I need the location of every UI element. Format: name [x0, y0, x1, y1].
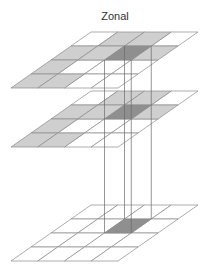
diagram-title: Zonal: [101, 10, 129, 22]
zonal-operation-diagram: Zonal: [0, 0, 209, 275]
